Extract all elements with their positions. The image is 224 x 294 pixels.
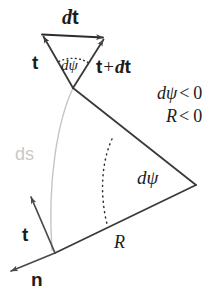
radius-line-lower — [55, 185, 196, 253]
ds-arc-curve — [51, 88, 73, 251]
tpdt-label-t2: t — [125, 56, 131, 77]
R-condition-label: R<0 — [166, 107, 204, 125]
tpdt-label-d: d — [115, 56, 125, 77]
t-plus-dt-label: t+dt — [96, 57, 131, 76]
ds-label: ds — [15, 145, 34, 163]
R-condition-symbol: R — [166, 106, 177, 126]
dpsi-condition-operator: < — [177, 83, 191, 103]
dpsi-condition-value: 0 — [191, 83, 204, 103]
dpsi-condition-label: dψ<0 — [157, 84, 204, 102]
dt-label-t: t — [72, 6, 79, 28]
curvature-diagram: dt t dψ t+dt dψ<0 R<0 ds dψ R t n — [0, 0, 224, 294]
R-condition-operator: < — [177, 106, 191, 126]
R-condition-value: 0 — [191, 106, 204, 126]
dt-vector-line — [42, 35, 103, 38]
R-label: R — [114, 233, 125, 251]
dt-vector-label: dt — [62, 7, 79, 27]
n-label: n — [31, 270, 43, 289]
t-label-upper: t — [32, 53, 38, 72]
dpsi-big-dotted-arc — [103, 139, 112, 224]
dpsi-big-label: dψ — [137, 168, 158, 187]
t-label-lower: t — [22, 225, 28, 244]
dpsi-condition-symbol: dψ — [157, 83, 177, 103]
dpsi-small-label: dψ — [61, 58, 78, 73]
dt-label-d: d — [62, 6, 72, 28]
tpdt-label-plus: + — [102, 56, 115, 77]
